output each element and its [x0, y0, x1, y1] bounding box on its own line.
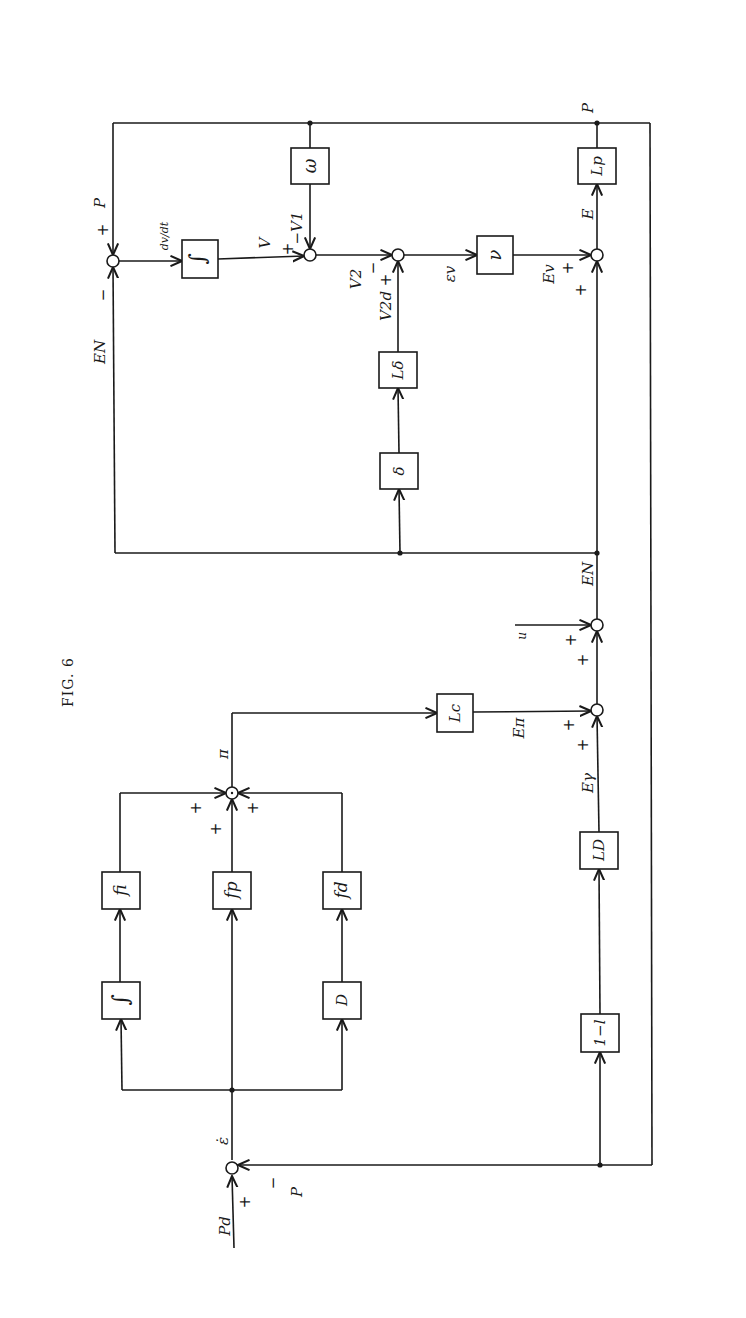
signal-v1: −V1 [288, 212, 306, 245]
svg-text:+: + [562, 634, 580, 647]
block-diagram: ∫ ω ν Lp Lδ δ Lc fi fp fd ∫ D LD 1−l P E… [0, 0, 746, 1318]
signal-e-pi: Eπ [510, 716, 528, 739]
signal-v: V [256, 235, 274, 248]
sum-e [591, 249, 603, 261]
signal-pi: π [214, 748, 232, 760]
signal-eps: ε̇ [214, 1137, 232, 1145]
sum-epi [591, 704, 603, 716]
label-integrator-top: ∫ [185, 253, 210, 265]
signal-e-gamma: Eγ [579, 773, 597, 794]
signal-dvdt: dv/dt [158, 221, 171, 250]
sum-en [591, 619, 603, 631]
svg-text:+: + [377, 274, 395, 287]
sum-dvdt [107, 255, 119, 267]
signal-en-left: EN [91, 339, 109, 365]
sum-epsv [392, 249, 404, 261]
label-d: D [333, 994, 351, 1007]
figure-title: FIG. 6 [60, 657, 76, 707]
signal-ev: Ev [540, 264, 558, 285]
svg-text:+: + [279, 243, 297, 256]
signal-labels: P EN dv/dt V −V1 V2 V2d εv Ev E P EN u E… [91, 102, 597, 1237]
svg-text:+: + [560, 719, 578, 732]
label-lc: Lc [446, 703, 464, 723]
svg-text:+: + [236, 1196, 254, 1209]
svg-text:+: + [572, 284, 590, 297]
label-nu: ν [484, 249, 505, 260]
signal-eps-v: εv [441, 265, 459, 282]
signal-p-fb: P [288, 1186, 306, 1198]
signal-u: u [515, 632, 529, 640]
signal-p-top: P [91, 197, 109, 209]
label-fd: fd [331, 881, 351, 900]
label-fp: fp [221, 881, 241, 900]
label-ld: LD [590, 839, 608, 862]
signs: + − + − + + + + + + + + + + + − [94, 224, 592, 1209]
label-l-delta: Lδ [389, 361, 407, 381]
label-fi: fi [110, 884, 130, 897]
sum-v2 [304, 249, 316, 261]
signal-v2: V2 [347, 269, 365, 289]
label-one-minus-l: 1−l [591, 1019, 609, 1046]
label-omega: ω [299, 158, 320, 173]
label-delta: δ [390, 466, 408, 475]
signal-v2d: V2d [377, 291, 395, 321]
svg-text:+: + [574, 739, 592, 752]
svg-text:+: + [94, 224, 112, 237]
signal-en-mid: EN [579, 561, 597, 587]
svg-text:+: + [187, 802, 205, 815]
svg-text:+: + [207, 823, 225, 836]
signal-pd: Pd [216, 1216, 234, 1237]
signal-e: E [579, 208, 597, 220]
sum-eps [226, 1162, 238, 1174]
svg-text:+: + [574, 654, 592, 667]
signal-p-out: P [579, 102, 597, 114]
svg-text:−: − [94, 289, 112, 302]
svg-text:+: + [244, 802, 262, 815]
svg-text:−: − [264, 1177, 282, 1190]
label-integrator-pid: ∫ [108, 994, 133, 1006]
svg-text:−: − [364, 262, 382, 275]
svg-text:+: + [559, 262, 577, 275]
label-lp: Lp [588, 156, 606, 177]
